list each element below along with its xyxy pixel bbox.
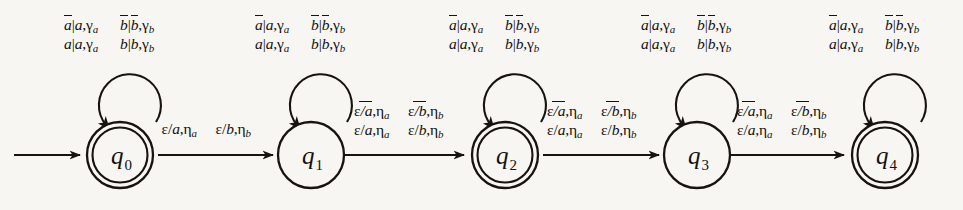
self-loop-q4 bbox=[864, 74, 926, 125]
state-node-q4[interactable]: q4 bbox=[852, 122, 918, 188]
self-loop-q3 bbox=[676, 74, 738, 125]
transition-label-item: ε/b,ηb bbox=[216, 120, 270, 142]
loop-label-item: b|b,γb bbox=[311, 35, 367, 57]
loop-label-item: a|a,γa bbox=[449, 35, 505, 57]
self-loop-label-q3: a|a,γab|b,γba|a,γab|b,γb bbox=[641, 16, 753, 54]
transition-label-item: ε/b,ηb bbox=[791, 121, 845, 143]
loop-label-item: a|a,γa bbox=[641, 35, 697, 57]
loop-label-item: b|b,γb bbox=[885, 35, 941, 57]
loop-label-item: a|a,γa bbox=[255, 35, 311, 57]
state-node-q2[interactable]: q2 bbox=[472, 122, 538, 188]
self-loop-q2 bbox=[484, 74, 546, 125]
loop-label-item: b|b,γb bbox=[120, 35, 176, 57]
self-loop-label-q1: a|a,γab|b,γba|a,γab|b,γb bbox=[255, 16, 367, 54]
state-node-q1[interactable]: q1 bbox=[278, 122, 344, 188]
transition-label-item: ε/a,ηa bbox=[737, 121, 791, 143]
transition-label-q1-to-q2: ε/a,ηaε/b,ηbε/a,ηaε/b,ηb bbox=[354, 102, 462, 140]
transition-label-item: ε/a,ηa bbox=[354, 121, 408, 143]
fsm-diagram-canvas: q0q1q2q3q4 a|a,γab|b,γba|a,γab|b,γba|a,γ… bbox=[0, 0, 963, 210]
self-loop-label-q2: a|a,γab|b,γba|a,γab|b,γb bbox=[449, 16, 561, 54]
loop-label-item: b|b,γb bbox=[697, 35, 753, 57]
state-node-q0[interactable]: q0 bbox=[87, 122, 153, 188]
state-node-q3[interactable]: q3 bbox=[664, 122, 730, 188]
loop-label-item: a|a,γa bbox=[829, 35, 885, 57]
transition-label-q2-to-q3: ε/a,ηaε/b,ηbε/a,ηaε/b,ηb bbox=[547, 102, 655, 140]
transition-label-item: ε/a,ηa bbox=[162, 120, 216, 142]
loop-label-item: b|b,γb bbox=[505, 35, 561, 57]
self-loop-q1 bbox=[290, 74, 352, 125]
transition-label-item: ε/b,ηb bbox=[408, 121, 462, 143]
transition-label-q3-to-q4: ε/a,ηaε/b,ηbε/a,ηaε/b,ηb bbox=[737, 102, 845, 140]
self-loop-label-q4: a|a,γab|b,γba|a,γab|b,γb bbox=[829, 16, 941, 54]
self-loop-label-q0: a|a,γab|b,γba|a,γab|b,γb bbox=[64, 16, 176, 54]
loop-label-item: a|a,γa bbox=[64, 35, 120, 57]
transition-label-item: ε/b,ηb bbox=[601, 121, 655, 143]
transition-label-item: ε/a,ηa bbox=[547, 121, 601, 143]
self-loop-q0 bbox=[99, 74, 161, 125]
transition-label-q0-to-q1: ε/a,ηaε/b,ηb bbox=[162, 120, 270, 139]
